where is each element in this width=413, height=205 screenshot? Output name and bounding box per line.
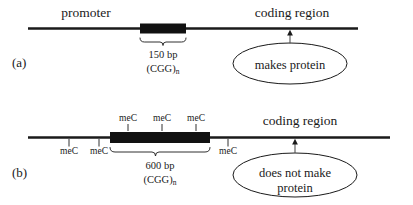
panel-b-outcome-text-line-2: protein [277,181,312,195]
panel-b-mec-label-above-3: meC [187,114,205,124]
panel-a-repeat-size-label: 150 bp [149,50,178,61]
panel-b-repeat-unit-text: (CGG) [144,174,173,185]
panel-b-mec-label-below-3: meC [219,147,237,157]
panel-b-arrow-head [292,139,298,145]
panel-a-repeat-unit-subscript: n [176,67,180,76]
panel-a-label: (a) [12,56,26,69]
panel-a-outcome-text: makes protein [255,58,325,72]
panel-b-outcome-text-line-1: does not make [259,166,331,180]
panel-b-label: (b) [12,166,27,179]
panel-b-repeat-unit-label: (CGG)n [144,175,177,186]
panel-b-repeat-block [110,132,210,143]
panel-a-arrow-head [287,30,293,36]
panel-b-repeat-unit-subscript: n [173,178,177,187]
panel-a-coding-region-label: coding region [255,6,330,20]
panel-a-repeat-block [140,24,186,34]
panel-a-repeat-unit-label: (CGG)n [147,64,180,75]
panel-b-mec-label-above-2: meC [153,114,171,124]
panel-b-mec-label-below-2: meC [90,147,108,157]
panel-a-promoter-label: promoter [61,6,111,20]
panel-b-brace [110,148,210,157]
panel-b-coding-region-label: coding region [263,114,338,128]
panel-a-graphics [28,24,358,85]
panel-b-mec-label-above-1: meC [119,114,137,124]
panel-b-mec-label-below-1: meC [60,147,78,157]
panel-b-repeat-size-label: 600 bp [146,161,175,172]
diagram-vector-layer [0,0,413,205]
panel-a-brace [140,38,186,46]
panel-b-graphics [28,124,390,197]
gene-methylation-figure: (a) promoter coding region 150 bp (CGG)n… [0,0,413,205]
panel-a-repeat-unit-text: (CGG) [147,63,176,74]
